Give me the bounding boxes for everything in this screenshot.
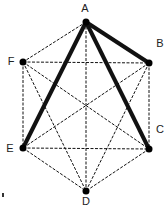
edge-fb <box>23 62 149 63</box>
bold-edge-ae <box>23 22 86 148</box>
edge-cd <box>86 149 149 191</box>
node-label-f: F <box>8 55 15 67</box>
edge-ed <box>23 148 86 191</box>
node-e <box>20 145 27 152</box>
node-label-a: A <box>81 2 89 14</box>
node-a <box>83 19 90 26</box>
node-label-d: D <box>82 195 90 207</box>
node-d <box>83 188 90 195</box>
node-b <box>146 60 153 67</box>
node-label-e: E <box>6 142 13 154</box>
node-labels: ABCDEF <box>6 2 164 207</box>
node-label-c: C <box>156 123 164 135</box>
scan-mark <box>2 193 4 197</box>
node-c <box>146 146 153 153</box>
node-f <box>20 59 27 66</box>
node-label-b: B <box>156 37 163 49</box>
graph-diagram: ABCDEF <box>0 0 168 208</box>
